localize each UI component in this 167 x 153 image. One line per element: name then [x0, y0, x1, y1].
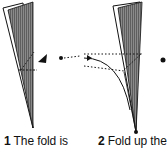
step-1-figure — [3, 2, 47, 128]
step-2-caption: 2 Fold up the — [98, 134, 167, 148]
step-2-text: Fold up the — [108, 134, 167, 148]
step-1-caption: 1 The fold is — [4, 134, 68, 148]
fold-arrow-icon — [87, 55, 92, 61]
step-arrow — [59, 56, 80, 60]
origami-diagram — [0, 0, 167, 153]
push-arrow-icon — [38, 54, 47, 63]
step-1-text: The fold is — [14, 134, 68, 148]
step-1-number: 1 — [4, 134, 11, 148]
step-2-figure — [84, 2, 166, 134]
step-2-number: 2 — [98, 134, 105, 148]
